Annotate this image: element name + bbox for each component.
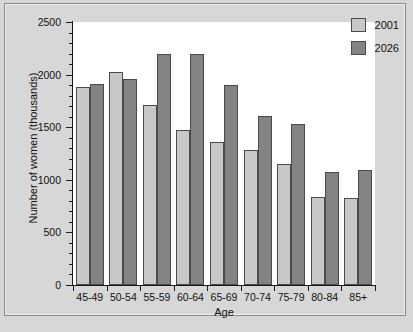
x-tick: [308, 286, 309, 291]
bar-50-54-2001: [109, 72, 123, 285]
x-tick-label: 75-79: [274, 292, 308, 303]
y-tick-major: [66, 180, 73, 181]
bar-75-79-2026: [291, 124, 305, 285]
x-tick-label: 55-59: [140, 292, 174, 303]
legend-item-2001: 2001: [351, 18, 399, 32]
y-tick-minor: [69, 96, 73, 97]
x-tick: [375, 286, 376, 291]
x-tick-label: 80-84: [308, 292, 342, 303]
x-tick-label: 45-49: [73, 292, 107, 303]
bar-60-64-2026: [190, 54, 204, 285]
y-tick-minor: [69, 64, 73, 65]
x-tick-label: 60-64: [174, 292, 208, 303]
y-tick-minor: [69, 274, 73, 275]
bar-60-64-2001: [176, 130, 190, 285]
y-tick-minor: [69, 106, 73, 107]
bar-85plus-2001: [344, 198, 358, 285]
y-tick-minor: [69, 117, 73, 118]
bar-75-79-2001: [277, 164, 291, 285]
y-tick-minor: [69, 85, 73, 86]
y-tick-major: [66, 127, 73, 128]
bar-45-49-2001: [76, 87, 90, 285]
bar-65-69-2026: [224, 85, 238, 285]
y-tick-major: [66, 232, 73, 233]
bar-80-84-2026: [325, 172, 339, 285]
y-tick-label: 1500: [38, 122, 61, 133]
x-tick-label: 65-69: [207, 292, 241, 303]
x-tick: [140, 286, 141, 291]
y-tick-minor: [69, 148, 73, 149]
bar-80-84-2001: [311, 197, 325, 285]
y-tick-label: 1000: [38, 175, 61, 186]
legend-label: 2026: [375, 43, 399, 54]
x-tick-label: 70-74: [241, 292, 275, 303]
y-tick-major: [66, 285, 73, 286]
y-tick-minor: [69, 264, 73, 265]
legend-swatch-2001: [351, 18, 366, 32]
y-tick-minor: [69, 243, 73, 244]
chart-legend: 20012026: [351, 18, 399, 55]
legend-item-2026: 2026: [351, 41, 399, 55]
bar-50-54-2026: [123, 79, 137, 285]
x-tick-label: 50-54: [107, 292, 141, 303]
y-tick-minor: [69, 169, 73, 170]
x-tick: [174, 286, 175, 291]
x-tick: [241, 286, 242, 291]
legend-label: 2001: [375, 20, 399, 31]
y-tick-minor: [69, 253, 73, 254]
x-axis-line: [72, 285, 376, 286]
y-tick-minor: [69, 222, 73, 223]
bar-70-74-2026: [258, 116, 272, 285]
legend-swatch-2026: [351, 41, 366, 55]
y-tick-minor: [69, 159, 73, 160]
y-tick-minor: [69, 190, 73, 191]
x-tick: [341, 286, 342, 291]
x-axis-label: Age: [73, 306, 375, 318]
y-axis-label: Number of women (thousands): [27, 53, 39, 243]
bar-45-49-2026: [90, 84, 104, 285]
y-tick-minor: [69, 54, 73, 55]
bar-55-59-2001: [143, 105, 157, 285]
x-tick: [274, 286, 275, 291]
chart-figure: 05001000150020002500 45-4950-5455-5960-6…: [0, 0, 413, 332]
y-tick-major: [66, 22, 73, 23]
bar-85plus-2026: [358, 170, 372, 285]
x-tick: [107, 286, 108, 291]
y-tick-minor: [69, 33, 73, 34]
x-tick: [207, 286, 208, 291]
bar-55-59-2026: [157, 54, 171, 285]
y-tick-minor: [69, 201, 73, 202]
x-tick-label: 85+: [341, 292, 375, 303]
bar-70-74-2001: [244, 150, 258, 285]
y-tick-minor: [69, 211, 73, 212]
y-tick-label: 2000: [38, 70, 61, 81]
y-tick-minor: [69, 138, 73, 139]
y-axis-line: [72, 21, 73, 286]
y-tick-minor: [69, 43, 73, 44]
bar-65-69-2001: [210, 142, 224, 285]
y-tick-label: 2500: [38, 17, 61, 28]
y-tick-major: [66, 75, 73, 76]
x-tick: [73, 286, 74, 291]
y-tick-label: 500: [43, 227, 61, 238]
y-tick-label: 0: [55, 280, 61, 291]
